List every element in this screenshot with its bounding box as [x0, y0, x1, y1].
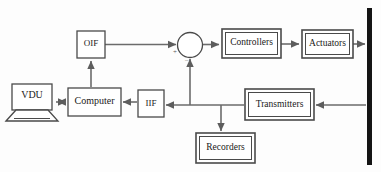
computer-label: Computer — [68, 96, 121, 106]
summing-junction-circle[interactable] — [178, 33, 203, 58]
iif-label: IIF — [138, 99, 164, 108]
transmitters-label: Transmitters — [245, 100, 314, 110]
process-boundary-bar — [367, 8, 372, 165]
diagram-vector-layer — [0, 0, 381, 172]
block-diagram-canvas: VDU Computer OIF IIF Controllers Actuato… — [0, 0, 381, 172]
minus-sign: – — [185, 57, 189, 64]
actuators-label: Actuators — [302, 39, 353, 49]
oif-label: OIF — [77, 39, 105, 48]
recorders-label: Recorders — [196, 143, 255, 153]
controllers-label: Controllers — [222, 38, 281, 48]
vdu-label: VDU — [12, 90, 52, 100]
plus-sign: + — [173, 49, 177, 56]
